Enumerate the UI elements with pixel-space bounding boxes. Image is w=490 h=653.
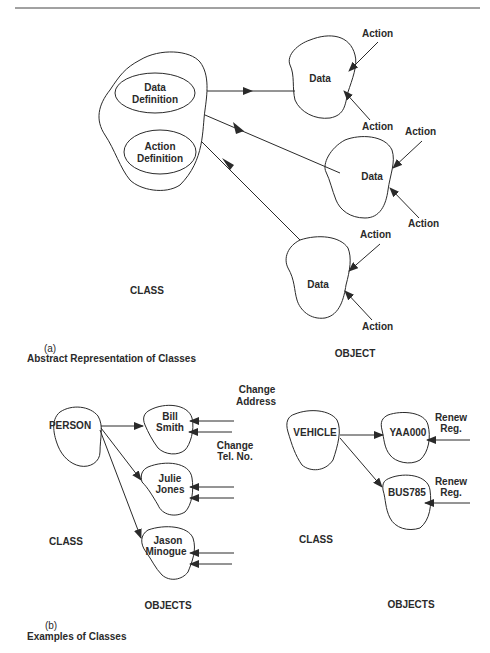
- object-name-line2: Jones: [156, 484, 185, 495]
- action-label: Renew: [435, 412, 467, 423]
- part-a-caption: Abstract Representation of Classes: [27, 353, 196, 364]
- arrowhead-icon: [243, 87, 253, 95]
- object-name-line1: Bill: [162, 411, 178, 422]
- action-label: Action: [408, 218, 439, 229]
- arrowhead-icon: [233, 122, 244, 134]
- action-definition-label-1: Action: [144, 141, 175, 152]
- action-label: Address: [236, 396, 276, 407]
- data-definition-label-2: Definition: [132, 94, 178, 105]
- action-label: Change: [239, 384, 276, 395]
- object-name-line2: Minogue: [145, 546, 187, 557]
- vehicle-label: VEHICLE: [293, 427, 337, 438]
- data-definition-ellipse: [115, 73, 195, 113]
- object-label: Data: [307, 279, 329, 290]
- connector-arrow: [101, 428, 141, 480]
- action-definition-ellipse: [124, 130, 196, 174]
- part-b-label: (b): [45, 620, 57, 631]
- action-label: Action: [362, 121, 393, 132]
- object-yaa000: YAA000: [381, 412, 429, 462]
- object-name: YAA000: [390, 427, 427, 438]
- class-label-a: CLASS: [130, 285, 164, 296]
- action-arrow: [390, 188, 419, 218]
- object-label: Data: [361, 171, 383, 182]
- action-label: Action: [360, 229, 391, 240]
- class-blob-a: Data Definition Action Definition: [99, 52, 207, 191]
- action-label: Tel. No.: [217, 451, 253, 462]
- objects-label-b-right: OBJECTS: [387, 599, 435, 610]
- action-label: Renew: [435, 476, 467, 487]
- object-label: Data: [309, 73, 331, 84]
- object-name-line1: Jason: [154, 535, 183, 546]
- action-arrow: [393, 141, 422, 168]
- object-blob-2: Data: [325, 137, 393, 218]
- person-class-blob: PERSON: [49, 407, 101, 466]
- object-julie-jones: Julie Jones: [141, 463, 192, 515]
- object-blob-3: Data: [286, 237, 350, 319]
- connector-arrow: [100, 430, 141, 538]
- object-label-a: OBJECT: [335, 348, 376, 359]
- object-blob-1: Data: [289, 36, 356, 118]
- action-arrow: [349, 42, 378, 71]
- connector-arrow: [340, 438, 382, 487]
- data-definition-label-1: Data: [144, 82, 166, 93]
- action-label: Reg.: [440, 423, 462, 434]
- action-label: Reg.: [440, 487, 462, 498]
- action-arrow: [345, 291, 372, 320]
- action-label: Change: [217, 440, 254, 451]
- action-definition-label-2: Definition: [137, 153, 183, 164]
- objects-label-b-left: OBJECTS: [144, 600, 192, 611]
- object-jason-minogue: Jason Minogue: [142, 527, 195, 580]
- object-name-line1: Julie: [159, 473, 182, 484]
- connector-arrow-2: [205, 115, 340, 173]
- class-object-diagram: Data Definition Action Definition Data A…: [0, 0, 490, 653]
- vehicle-class-blob: VEHICLE: [287, 411, 339, 470]
- part-b-caption: Examples of Classes: [27, 631, 127, 642]
- class-label-b-right: CLASS: [299, 534, 333, 545]
- person-label: PERSON: [49, 420, 91, 431]
- object-name: BUS785: [388, 487, 426, 498]
- object-bill-smith: Bill Smith: [144, 405, 193, 454]
- action-label: Action: [405, 126, 436, 137]
- object-bus785: BUS785: [383, 475, 431, 529]
- class-label-b-left: CLASS: [49, 536, 83, 547]
- connector-arrow-3: [202, 142, 300, 240]
- action-arrow: [344, 91, 370, 120]
- action-label: Action: [362, 28, 393, 39]
- action-arrow: [349, 244, 380, 271]
- action-label: Action: [362, 321, 393, 332]
- object-name-line2: Smith: [156, 422, 184, 433]
